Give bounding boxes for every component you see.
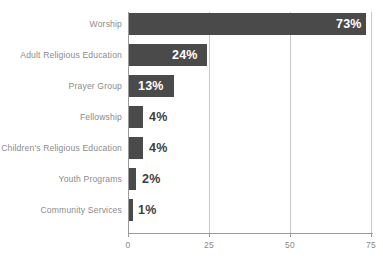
x-tick-mark-25 (209, 233, 210, 237)
x-tick-mark-75 (371, 233, 372, 237)
category-label: Adult Religious Education (0, 44, 122, 66)
x-tick-mark-50 (290, 233, 291, 237)
bar-row: Community Services 1% (0, 199, 383, 221)
bar-value-label: 1% (138, 199, 156, 221)
bar-row: Prayer Group 13% (0, 75, 383, 97)
bar-row: Youth Programs 2% (0, 168, 383, 190)
category-label: Youth Programs (0, 168, 122, 190)
bar (129, 106, 143, 128)
bar-value-label: 2% (142, 168, 160, 190)
bar (129, 137, 143, 159)
x-tick-label-50: 50 (285, 240, 295, 250)
bar-value-label: 4% (149, 137, 167, 159)
bar-row: Worship 73% (0, 13, 383, 35)
bar-row: Fellowship 4% (0, 106, 383, 128)
bar-value-label: 24% (172, 44, 198, 66)
bar (129, 199, 133, 221)
x-tick-label-25: 25 (204, 240, 214, 250)
x-tick-mark-0 (128, 233, 129, 237)
bar (129, 168, 136, 190)
bar (129, 13, 366, 35)
category-label: Community Services (0, 199, 122, 221)
x-axis-line (128, 233, 373, 234)
bar-value-label: 73% (336, 13, 362, 35)
x-tick-label-0: 0 (126, 240, 131, 250)
category-label: Worship (0, 13, 122, 35)
category-label: Children's Religious Education (0, 137, 122, 159)
category-label: Prayer Group (0, 75, 122, 97)
bar-row: Adult Religious Education 24% (0, 44, 383, 66)
bar-value-label: 4% (149, 106, 167, 128)
category-label: Fellowship (0, 106, 122, 128)
bar-row: Children's Religious Education 4% (0, 137, 383, 159)
x-tick-label-75: 75 (366, 240, 376, 250)
bar-chart: 0 25 50 75 Worship 73% Adult Religious E… (0, 0, 383, 261)
bar-value-label: 13% (138, 75, 164, 97)
